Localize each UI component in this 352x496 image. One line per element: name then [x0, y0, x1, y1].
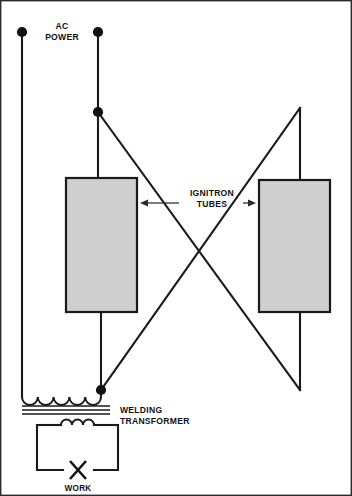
ac-power-label-line2: POWER — [45, 32, 79, 42]
junction-transformer-primary — [96, 385, 106, 395]
welding-transformer-label: WELDING TRANSFORMER — [120, 405, 190, 426]
ignitron-welding-schematic: IGNITRON TUBES AC POWER WELDING TRANSFOR… — [0, 0, 352, 496]
ac-terminal-left — [17, 27, 27, 37]
welding-label-line1: WELDING — [120, 405, 162, 415]
work-wire-right — [94, 425, 118, 470]
ignitron-label-line2: TUBES — [197, 199, 227, 209]
welding-label-line2: TRANSFORMER — [120, 416, 190, 426]
transformer-secondary-winding — [61, 420, 94, 426]
welding-transformer[interactable] — [22, 392, 110, 425]
ac-terminal-right — [93, 27, 103, 37]
transformer-primary-winding — [22, 397, 101, 405]
callout-arrow-left-icon — [140, 200, 148, 207]
work-wire-left — [37, 425, 63, 470]
work-circuit[interactable]: WORK — [37, 425, 118, 493]
ac-power-label-line1: AC — [56, 21, 69, 31]
ignitron-tube-left[interactable] — [66, 178, 137, 312]
ignitron-tubes-callout: IGNITRON TUBES — [140, 188, 256, 209]
ac-power-label: AC POWER — [45, 21, 79, 42]
ignitron-label-line1: IGNITRON — [190, 188, 234, 198]
callout-arrow-right-icon — [248, 200, 256, 207]
ignitron-tube-right[interactable] — [259, 180, 330, 312]
junction-upper-right-branch — [93, 107, 103, 117]
work-label: WORK — [65, 484, 92, 493]
schematic-diagram-container: IGNITRON TUBES AC POWER WELDING TRANSFOR… — [0, 0, 352, 496]
